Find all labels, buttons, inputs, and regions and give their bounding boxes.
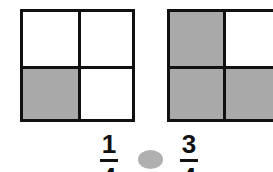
left-cell-bottom-right [81, 69, 132, 119]
left-denominator: 4 [97, 164, 121, 172]
right-cell-bottom-right-shaded [226, 69, 273, 119]
right-fraction-label: 3 4 [177, 131, 201, 172]
right-fraction-square [167, 9, 273, 122]
left-numerator: 1 [97, 131, 121, 157]
right-cell-top-left-shaded [170, 12, 223, 66]
left-cell-top-right [81, 12, 132, 66]
right-cell-bottom-left-shaded [170, 69, 223, 119]
right-horizontal-divider [170, 66, 273, 69]
comparison-circle-blank[interactable] [138, 150, 163, 169]
left-fraction-label: 1 4 [97, 131, 121, 172]
left-horizontal-divider [23, 66, 132, 69]
right-denominator: 4 [177, 164, 201, 172]
right-cell-top-right [226, 12, 273, 66]
left-cell-top-left [23, 12, 78, 66]
right-numerator: 3 [177, 131, 201, 157]
left-cell-bottom-left-shaded [23, 69, 78, 119]
left-fraction-square [20, 9, 135, 122]
